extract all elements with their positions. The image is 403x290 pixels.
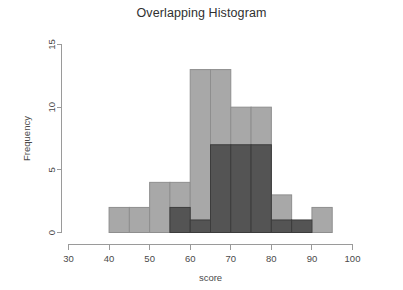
x-tick-label: 60 (185, 253, 196, 264)
y-axis-title: Frequency (21, 116, 32, 161)
y-tick-label: 10 (46, 102, 57, 113)
plot-area: 05101530405060708090100scoreFrequency (0, 0, 403, 290)
x-tick-label: 100 (345, 253, 361, 264)
histogram-bar (271, 220, 291, 233)
y-axis-line (57, 45, 62, 233)
x-tick-label: 90 (307, 253, 318, 264)
y-tick-label: 5 (46, 167, 57, 172)
histogram-bar (170, 207, 190, 232)
histogram-bar (109, 207, 129, 232)
histogram-bar (190, 220, 210, 233)
histogram-bar (150, 182, 170, 232)
histogram-bar (251, 145, 271, 233)
x-tick-label: 70 (225, 253, 236, 264)
y-tick-label: 0 (46, 230, 57, 235)
x-tick-label: 50 (144, 253, 155, 264)
y-tick-label: 15 (46, 39, 57, 50)
histogram-bar (211, 145, 231, 233)
x-tick-label: 30 (63, 253, 74, 264)
histogram-chart: Overlapping Histogram 051015304050607080… (0, 0, 403, 290)
histogram-bar (190, 70, 210, 233)
histogram-bar (292, 220, 312, 233)
histogram-bar (231, 145, 251, 233)
x-axis-line (69, 245, 353, 250)
x-tick-label: 40 (104, 253, 115, 264)
histogram-bar (129, 207, 149, 232)
histogram-bar (312, 207, 332, 232)
x-tick-label: 80 (266, 253, 277, 264)
x-axis-title: score (199, 272, 222, 283)
